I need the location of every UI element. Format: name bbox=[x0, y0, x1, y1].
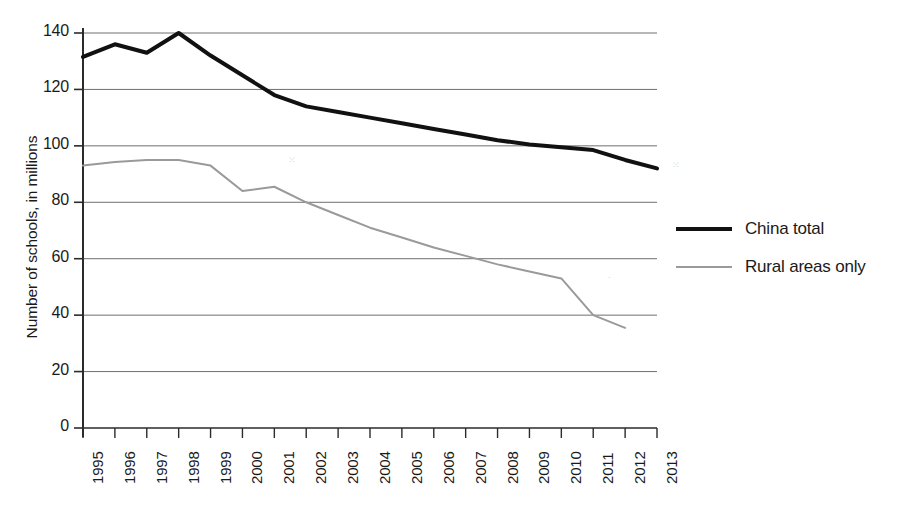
legend-item-china-total: China total bbox=[676, 210, 866, 248]
x-tick-label: 2002 bbox=[312, 451, 329, 484]
chart-figure: Number of schools, in millions 020406080… bbox=[0, 0, 914, 519]
scan-artifact-2: ⁙ bbox=[672, 160, 680, 170]
x-tick-label: 2012 bbox=[631, 451, 648, 484]
chart-legend: China total Rural areas only bbox=[676, 210, 866, 286]
x-tick-label: 2000 bbox=[248, 451, 265, 484]
x-tick-label: 2007 bbox=[472, 451, 489, 484]
x-tick-label: 1996 bbox=[121, 451, 138, 484]
x-tick-label: 2011 bbox=[599, 453, 616, 484]
x-tick-label: 1999 bbox=[217, 451, 234, 484]
legend-label-china-total: China total bbox=[745, 219, 824, 239]
legend-label-rural-areas-only: Rural areas only bbox=[745, 257, 866, 277]
x-tick-label: 2001 bbox=[280, 451, 297, 484]
x-tick-label: 2003 bbox=[344, 451, 361, 484]
x-tick-label: 2004 bbox=[376, 451, 393, 484]
y-tick-label: 60 bbox=[52, 248, 69, 266]
legend-swatch-china-total bbox=[676, 227, 732, 231]
y-tick-label: 140 bbox=[43, 22, 69, 40]
legend-item-rural-areas-only: Rural areas only bbox=[676, 248, 866, 286]
series-line-rural-areas-only bbox=[83, 160, 625, 328]
x-tick-label: 1995 bbox=[89, 451, 106, 484]
legend-swatch-rural-areas-only bbox=[676, 266, 732, 268]
x-tick-label: 2006 bbox=[440, 451, 457, 484]
y-tick-label: 80 bbox=[52, 191, 69, 209]
x-tick-label: 1998 bbox=[185, 451, 202, 484]
y-tick-label: 40 bbox=[52, 304, 69, 322]
series-line-china-total bbox=[83, 33, 657, 168]
x-tick-label: 2010 bbox=[567, 451, 584, 484]
scan-artifact-3: · bbox=[608, 272, 611, 282]
x-tick-label: 2009 bbox=[535, 451, 552, 484]
gridlines bbox=[74, 33, 657, 428]
scan-artifact-1: ⁙ bbox=[288, 155, 296, 165]
y-tick-label: 0 bbox=[60, 417, 69, 435]
x-tick-label: 2013 bbox=[663, 451, 680, 484]
x-tick-label: 2005 bbox=[408, 451, 425, 484]
x-tick-label: 1997 bbox=[153, 451, 170, 484]
y-tick-label: 20 bbox=[52, 361, 69, 379]
y-tick-label: 120 bbox=[43, 78, 69, 96]
x-axis-ticks bbox=[83, 428, 657, 438]
y-tick-label: 100 bbox=[43, 135, 69, 153]
x-tick-label: 2008 bbox=[504, 451, 521, 484]
